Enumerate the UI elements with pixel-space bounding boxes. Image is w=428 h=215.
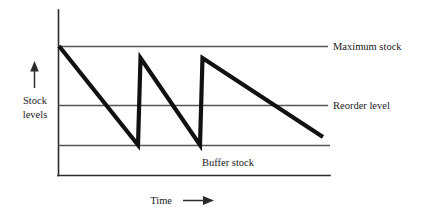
y-axis-title-line1: Stock	[23, 95, 48, 106]
stock-level-curve	[59, 46, 323, 145]
arrow-up-icon	[30, 61, 39, 88]
buffer-stock-label: Buffer stock	[202, 157, 255, 168]
reorder-level-label: Reorder level	[333, 100, 390, 111]
x-axis-title: Time	[150, 195, 172, 206]
y-axis-title-line2: levels	[23, 109, 48, 120]
maximum-stock-label: Maximum stock	[333, 41, 402, 52]
arrow-right-icon	[183, 196, 214, 205]
stock-control-chart: Maximum stock Reorder level Buffer stock…	[0, 0, 428, 215]
